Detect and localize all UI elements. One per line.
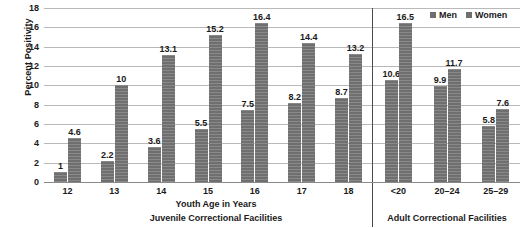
- bar-women-18[interactable]: [349, 54, 362, 182]
- bar-value-men-15: 5.5: [195, 118, 208, 128]
- bar-women-16[interactable]: [255, 23, 268, 182]
- x-tick-label-17: 17: [297, 186, 307, 196]
- bar-men-14[interactable]: [148, 147, 161, 182]
- bar-women-25–29[interactable]: [496, 109, 509, 182]
- bar-men-13[interactable]: [101, 161, 114, 182]
- legend-label-men: Men: [439, 10, 457, 20]
- bar-women-13[interactable]: [115, 85, 128, 182]
- bar-value-women-14: 13.1: [159, 44, 177, 54]
- bar-value-women-13: 10: [116, 74, 126, 84]
- bar-value-men-16: 7.5: [242, 99, 255, 109]
- bar-men-<20[interactable]: [385, 80, 398, 182]
- bar-value-women-12: 4.6: [68, 127, 81, 137]
- x-tick-label-25–29: 25–29: [483, 186, 508, 196]
- y-tick-label-16: 16: [29, 22, 39, 32]
- bar-men-16[interactable]: [241, 110, 254, 183]
- legend-item-men[interactable]: Men: [430, 10, 457, 20]
- bar-value-women-25–29: 7.6: [496, 98, 509, 108]
- section-divider-bottom: [372, 183, 373, 227]
- y-tick-label-4: 4: [34, 138, 39, 148]
- x-tick-label-15: 15: [203, 186, 213, 196]
- bar-value-men-<20: 10.6: [383, 69, 401, 79]
- x-tick-label-16: 16: [250, 186, 260, 196]
- bar-value-men-25–29: 5.8: [482, 115, 495, 125]
- x-tick-label-13: 13: [109, 186, 119, 196]
- y-tick-label-12: 12: [29, 61, 39, 71]
- bar-value-men-13: 2.2: [101, 150, 114, 160]
- x-tick-label-14: 14: [156, 186, 166, 196]
- x-tick-label-20–24: 20–24: [434, 186, 459, 196]
- gridline-14: [44, 47, 520, 48]
- y-tick-label-8: 8: [34, 100, 39, 110]
- bar-value-women-17: 14.4: [300, 32, 318, 42]
- bar-men-15[interactable]: [195, 129, 208, 182]
- y-tick-label-18: 18: [29, 3, 39, 13]
- x-tick-label-12: 12: [62, 186, 72, 196]
- legend-item-women[interactable]: Women: [466, 10, 507, 20]
- x-tick-label-18: 18: [344, 186, 354, 196]
- x-tick-label-<20: <20: [391, 186, 406, 196]
- section-divider: [372, 8, 373, 182]
- section-label-adult: Adult Correctional Facilities: [387, 213, 507, 223]
- bar-value-men-17: 8.2: [288, 92, 301, 102]
- y-tick-label-2: 2: [34, 158, 39, 168]
- bar-women-14[interactable]: [162, 55, 175, 182]
- y-tick-label-0: 0: [34, 177, 39, 187]
- chart-legend: Men Women: [430, 10, 507, 20]
- bar-value-women-20–24: 11.7: [445, 58, 462, 68]
- x-axis-title: Youth Age in Years: [176, 199, 257, 209]
- bar-women-<20[interactable]: [399, 23, 412, 183]
- bar-women-12[interactable]: [68, 138, 81, 182]
- bar-men-12[interactable]: [54, 172, 67, 182]
- bar-value-men-14: 3.6: [148, 136, 161, 146]
- section-label-juvenile: Juvenile Correctional Facilities: [150, 213, 283, 223]
- gridline-18: [44, 8, 520, 9]
- bar-men-25–29[interactable]: [482, 126, 495, 182]
- bar-value-women-<20: 16.5: [397, 12, 415, 22]
- y-tick-label-10: 10: [29, 80, 39, 90]
- bar-men-18[interactable]: [335, 98, 348, 182]
- bar-value-women-15: 15.2: [206, 24, 224, 34]
- bar-value-women-16: 16.4: [253, 12, 271, 22]
- plot-area: 02468101214161814.62.2103.613.15.515.27.…: [44, 8, 520, 182]
- bar-women-20–24[interactable]: [448, 69, 461, 182]
- gridline-0: [44, 182, 520, 183]
- bar-women-17[interactable]: [302, 43, 315, 182]
- bar-men-20–24[interactable]: [434, 86, 447, 182]
- bar-men-17[interactable]: [288, 103, 301, 182]
- legend-label-women: Women: [475, 10, 507, 20]
- y-tick-label-6: 6: [34, 119, 39, 129]
- bar-value-men-20–24: 9.9: [434, 75, 447, 85]
- bar-value-women-18: 13.2: [347, 43, 365, 53]
- y-tick-label-14: 14: [29, 42, 39, 52]
- gridline-16: [44, 27, 520, 28]
- bar-value-men-18: 8.7: [335, 87, 348, 97]
- bar-women-15[interactable]: [209, 35, 222, 182]
- legend-swatch-men-icon: [430, 12, 436, 18]
- bar-value-men-12: 1: [58, 161, 63, 171]
- bar-chart: Percent Positivity 02468101214161814.62.…: [0, 0, 524, 228]
- legend-swatch-women-icon: [466, 12, 472, 18]
